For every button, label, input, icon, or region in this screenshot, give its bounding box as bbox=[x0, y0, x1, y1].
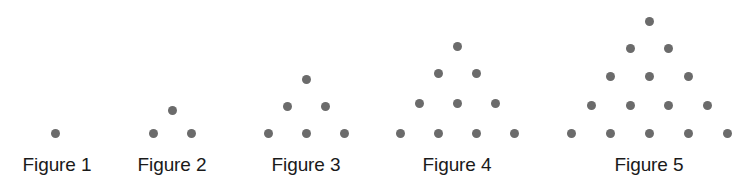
figure-sequence-canvas: Figure 1Figure 2Figure 3Figure 4Figure 5 bbox=[0, 0, 754, 194]
pattern-dot bbox=[606, 72, 615, 81]
pattern-dot bbox=[283, 102, 292, 111]
pattern-dot bbox=[264, 129, 273, 138]
figure-label: Figure 2 bbox=[112, 154, 232, 176]
pattern-dot bbox=[396, 129, 405, 138]
figure-label: Figure 4 bbox=[397, 154, 517, 176]
pattern-dot bbox=[703, 101, 712, 110]
pattern-dot bbox=[472, 69, 481, 78]
pattern-dot bbox=[626, 101, 635, 110]
pattern-dot bbox=[645, 129, 654, 138]
pattern-dot bbox=[587, 101, 596, 110]
pattern-dot bbox=[472, 129, 481, 138]
figure-label: Figure 1 bbox=[0, 154, 117, 176]
pattern-dot bbox=[606, 129, 615, 138]
pattern-dot bbox=[684, 129, 693, 138]
pattern-dot bbox=[491, 99, 500, 108]
pattern-dot bbox=[340, 129, 349, 138]
pattern-dot bbox=[567, 129, 576, 138]
figure-label: Figure 5 bbox=[589, 154, 709, 176]
pattern-dot bbox=[664, 44, 673, 53]
pattern-dot bbox=[434, 129, 443, 138]
pattern-dot bbox=[664, 101, 673, 110]
pattern-dot bbox=[302, 129, 311, 138]
pattern-dot bbox=[149, 129, 158, 138]
pattern-dot bbox=[723, 129, 732, 138]
pattern-dot bbox=[684, 72, 693, 81]
pattern-dot bbox=[510, 129, 519, 138]
pattern-dot bbox=[434, 69, 443, 78]
pattern-dot bbox=[51, 129, 60, 138]
pattern-dot bbox=[321, 102, 330, 111]
pattern-dot bbox=[187, 129, 196, 138]
pattern-dot bbox=[453, 99, 462, 108]
pattern-dot bbox=[645, 72, 654, 81]
figure-label: Figure 3 bbox=[246, 154, 366, 176]
pattern-dot bbox=[415, 99, 424, 108]
pattern-dot bbox=[302, 75, 311, 84]
pattern-dot bbox=[626, 44, 635, 53]
pattern-dot bbox=[453, 42, 462, 51]
pattern-dot bbox=[168, 106, 177, 115]
pattern-dot bbox=[645, 17, 654, 26]
